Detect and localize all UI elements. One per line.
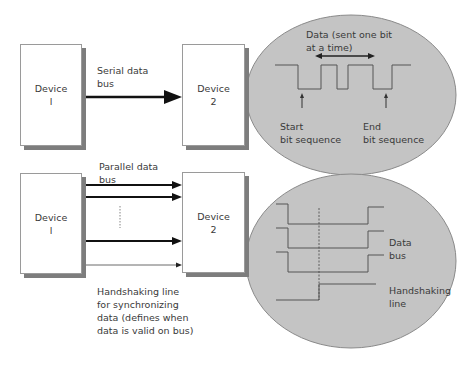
serial-device-2-label: Device 2 — [197, 82, 230, 108]
parallel-timing-ellipse — [246, 174, 456, 348]
serial-bus-arrow — [82, 90, 182, 104]
handshake-caption: Handshaking line for synchronizing data … — [97, 285, 193, 337]
start-bit-label: Start bit sequence — [280, 120, 341, 146]
end-bit-label: End bit sequence — [363, 120, 424, 146]
parallel-device-2: Device 2 — [182, 172, 245, 273]
parallel-bus-label: Parallel data bus — [99, 160, 158, 186]
parallel-device-2-label: Device 2 — [197, 210, 230, 236]
serial-device-1: Device l — [20, 44, 82, 146]
data-bus-label: Data bus — [389, 236, 412, 262]
serial-device-2: Device 2 — [182, 44, 245, 146]
parallel-bus-arrows — [82, 181, 182, 268]
data-span-label: Data (sent one bit at a time) — [306, 28, 392, 54]
serial-device-1-label: Device l — [35, 82, 68, 108]
parallel-device-1-label: Device l — [35, 211, 68, 237]
parallel-device-1: Device l — [20, 173, 82, 274]
serial-bus-label: Serial data bus — [97, 64, 148, 90]
handshake-line-label: Handshaking line — [389, 284, 451, 310]
